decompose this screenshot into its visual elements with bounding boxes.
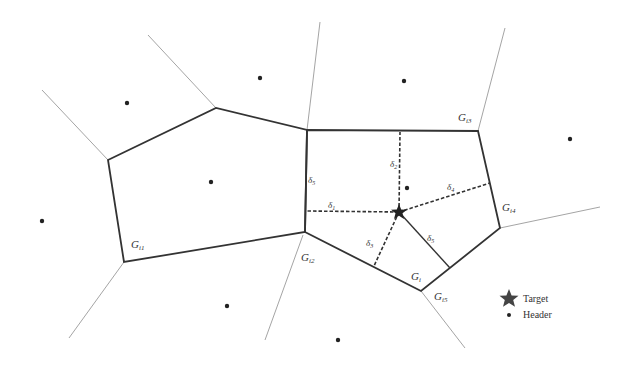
label-delta-2: δ2 bbox=[390, 159, 397, 170]
label-g-i1: Gi1 bbox=[131, 238, 144, 252]
label-g-i: Gi bbox=[411, 270, 421, 284]
label-delta-edge: δ5 bbox=[308, 175, 315, 186]
label-g-i5: Gi5 bbox=[434, 290, 448, 304]
label-delta-4: δ4 bbox=[447, 182, 454, 193]
legend-label-header: Header bbox=[523, 309, 553, 320]
target-star-icon bbox=[391, 204, 407, 219]
solid-partition-line bbox=[399, 212, 450, 268]
label-delta-1: δ1 bbox=[328, 200, 335, 211]
legend-label-target: Target bbox=[523, 293, 548, 304]
legend: Target Header bbox=[500, 289, 553, 320]
label-g-i2: Gi2 bbox=[301, 251, 315, 265]
dashed-partition-lines bbox=[307, 132, 490, 266]
label-g-i4: Gi4 bbox=[502, 201, 516, 215]
legend-star-icon bbox=[500, 289, 519, 307]
outer-voronoi-edges bbox=[42, 22, 600, 348]
label-delta-5: δ5 bbox=[427, 233, 434, 244]
label-delta-3: δ3 bbox=[366, 238, 373, 249]
legend-dot-icon bbox=[507, 313, 511, 317]
voronoi-diagram: Gi1 Gi2 Gi3 Gi4 Gi5 Gi δ1 δ2 δ3 δ4 δ5 δ5… bbox=[0, 0, 628, 369]
label-g-i3: Gi3 bbox=[458, 111, 472, 125]
